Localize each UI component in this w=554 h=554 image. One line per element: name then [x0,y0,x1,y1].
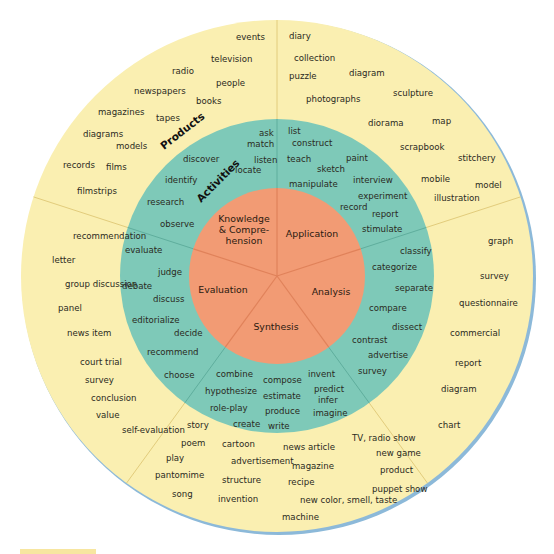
activities-word: experiment [358,191,408,201]
products-word: chart [438,420,461,430]
activities-word: produce [265,406,300,416]
products-word: models [116,141,148,151]
activities-word: identify [165,175,197,185]
products-word: advertisement [231,456,294,466]
activities-word: compose [263,375,302,385]
activities-word: editorialize [132,315,180,325]
products-word: stitchery [458,153,496,163]
core-label-knowledge-comprehension: Knowledge& Compre-hension [218,213,270,246]
activities-word: recommend [147,347,199,357]
activities-word: create [233,419,260,429]
activities-word: advertise [368,350,408,360]
products-word: diagram [441,384,477,394]
products-word: magazine [292,461,334,471]
activities-word: list [288,126,301,136]
core-label-application: Application [286,228,338,239]
activities-word: choose [164,370,194,380]
products-word: map [432,116,451,126]
activities-word: evaluate [125,245,162,255]
products-word: photographs [306,94,361,104]
products-word: people [216,78,245,88]
activities-word: compare [369,303,407,313]
activities-word: decide [174,328,203,338]
products-word: product [380,465,414,475]
products-word: cartoon [222,439,255,449]
products-word: court trial [80,357,122,367]
activities-word: judge [157,267,182,277]
products-word: magazines [98,107,145,117]
activities-word: ask [259,128,274,138]
products-word: play [166,453,184,463]
core-label-analysis: Analysis [312,286,351,297]
activities-word: stimulate [362,224,402,234]
products-word: newspapers [134,86,186,96]
activities-word: interview [353,175,393,185]
products-word: group discussion [65,279,137,289]
products-word: radio [172,66,194,76]
products-word: self-evaluation [122,425,185,435]
activities-word: sketch [317,164,345,174]
products-word: pantomime [155,470,204,480]
taxonomy-wheel-diagram: Products Activities Knowledge& Compre-he… [0,0,554,554]
products-word: diary [289,31,311,41]
products-word: news article [283,442,335,452]
activities-word: classify [400,246,432,256]
products-word: diagrams [83,129,124,139]
products-word: panel [58,303,82,313]
products-word: value [96,410,119,420]
products-word: news item [67,328,111,338]
activities-word: research [147,197,184,207]
activities-word: discuss [153,294,185,304]
activities-word: hypothesize [205,386,257,396]
activities-word: locate [235,165,261,175]
activities-word: predict [314,384,345,394]
activities-word: role-play [210,403,248,413]
products-word: survey [85,375,114,385]
activities-word: separate [395,283,433,293]
activities-word: write [268,421,290,431]
activities-word: infer [318,395,338,405]
products-word: TV, radio show [351,433,415,443]
products-word: records [63,160,95,170]
activities-word: paint [346,153,369,163]
products-word: recipe [288,477,315,487]
core-label-evaluation: Evaluation [198,284,248,295]
products-word: structure [222,475,261,485]
products-word: filmstrips [77,186,117,196]
products-word: questionnaire [459,298,518,308]
products-word: recommendation [73,231,146,241]
activities-word: imagine [313,408,348,418]
products-word: survey [480,271,509,281]
products-word: books [196,96,222,106]
products-word: television [211,54,252,64]
products-word: conclusion [91,393,137,403]
products-word: films [106,162,127,172]
activities-word: survey [358,366,387,376]
products-word: graph [488,236,513,246]
products-word: mobile [421,174,450,184]
products-word: puppet show [372,484,427,494]
products-word: story [187,420,209,430]
activities-word: teach [287,154,311,164]
activities-word: record [340,202,367,212]
products-word: letter [52,255,76,265]
products-word: poem [181,438,205,448]
products-word: diorama [368,118,404,128]
activities-word: match [247,139,274,149]
caption-bar [20,549,96,554]
activities-word: combine [216,369,253,379]
products-word: new game [376,448,421,458]
core-label-synthesis: Synthesis [253,321,298,332]
activities-word: categorize [372,262,417,272]
products-word: sculpture [393,88,433,98]
products-word: report [455,358,482,368]
activities-word: manipulate [289,179,338,189]
products-word: events [236,32,265,42]
products-word: new color, smell, taste [300,495,397,505]
activities-word: construct [292,138,333,148]
products-word: illustration [434,193,480,203]
activities-word: invent [308,369,336,379]
products-word: puzzle [289,71,317,81]
products-word: collection [294,53,335,63]
activities-word: dissect [392,322,423,332]
